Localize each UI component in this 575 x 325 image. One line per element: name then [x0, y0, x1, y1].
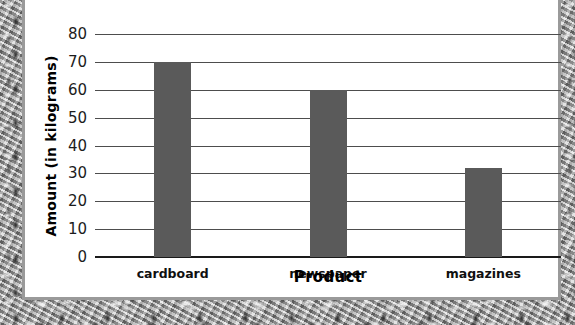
y-axis-title: Amount (in kilograms): [39, 34, 61, 257]
chart-screenshot: Amount (in kilograms) 80706050403020100c…: [0, 0, 575, 325]
y-axis-tick-label: 60: [68, 81, 87, 99]
bar: [465, 168, 502, 257]
y-axis-tick-label: 70: [68, 53, 87, 71]
y-axis-tick-label: 20: [68, 192, 87, 210]
page-border-texture-right: [561, 0, 575, 325]
chart-card: Amount (in kilograms) 80706050403020100c…: [22, 0, 561, 300]
plot-area: 80706050403020100cardboardnewspapermagaz…: [95, 34, 561, 257]
page-border-texture-bottom: [0, 297, 575, 325]
x-axis-title: Product: [95, 268, 561, 286]
y-axis-tick-label: 50: [68, 109, 87, 127]
y-axis-tick-label: 0: [77, 248, 87, 266]
bar: [154, 62, 191, 257]
y-axis-tick-label: 80: [68, 25, 87, 43]
y-axis-title-text: Amount (in kilograms): [42, 55, 58, 236]
y-axis-tick-label: 10: [68, 220, 87, 238]
gridline: [95, 34, 561, 35]
page-border-texture-left: [0, 0, 22, 325]
y-axis-tick-label: 30: [68, 164, 87, 182]
y-axis-tick-label: 40: [68, 137, 87, 155]
bar: [310, 90, 347, 257]
